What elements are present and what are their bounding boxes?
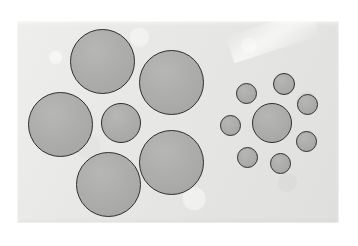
circle-sheen — [297, 132, 316, 151]
circle-sheen — [238, 148, 257, 167]
right-center — [252, 103, 292, 143]
figure-canvas — [0, 0, 358, 246]
right-circle-cluster — [17, 21, 339, 223]
right-surround-2 — [273, 73, 295, 95]
circle-sheen — [298, 95, 317, 114]
right-surround-4 — [296, 131, 317, 152]
right-surround-6 — [237, 147, 258, 168]
right-surround-1 — [236, 83, 257, 104]
circle-sheen — [271, 154, 290, 173]
paper-sheet — [17, 21, 339, 223]
circle-sheen — [274, 74, 294, 94]
circle-sheen — [237, 84, 256, 103]
circle-sheen — [221, 116, 240, 135]
right-surround-3 — [297, 94, 318, 115]
right-surround-5 — [270, 153, 291, 174]
right-surround-7 — [220, 115, 241, 136]
circle-sheen — [253, 104, 291, 142]
